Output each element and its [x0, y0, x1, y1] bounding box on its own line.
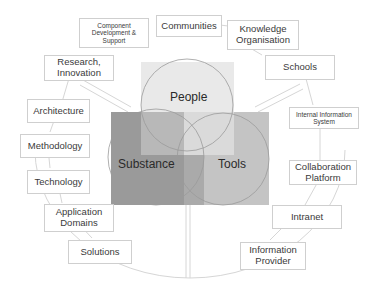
- box-schools: Schools: [265, 55, 335, 80]
- box-application-domains: Application Domains: [44, 204, 114, 232]
- box-information-provider: Information Provider: [240, 242, 306, 270]
- tools-label: Tools: [218, 157, 246, 171]
- box-collaboration-platform: Collaboration Platform: [289, 160, 357, 185]
- substance-label: Substance: [118, 157, 175, 171]
- box-solutions: Solutions: [68, 240, 132, 264]
- box-architecture: Architecture: [27, 99, 90, 123]
- box-intranet: Intranet: [272, 205, 342, 229]
- box-communities: Communities: [156, 15, 222, 37]
- box-research-innovation: Research, Innovation: [44, 55, 114, 81]
- box-component-development: Component Development & Support: [79, 18, 149, 48]
- box-methodology: Methodology: [20, 134, 90, 158]
- people-label: People: [170, 90, 207, 104]
- box-internal-information-system: Internal Information System: [289, 107, 359, 129]
- box-technology: Technology: [27, 170, 90, 194]
- box-knowledge-organisation: Knowledge Organisation: [227, 20, 299, 50]
